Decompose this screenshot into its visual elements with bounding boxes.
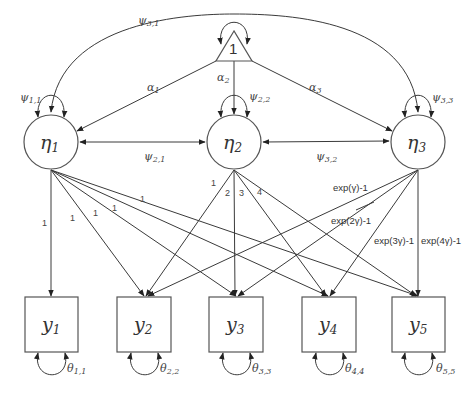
label-eta3-y5: exp(4γ)-1	[421, 235, 461, 246]
variance-arc-psi33	[405, 95, 431, 117]
loading-eta3-y3	[238, 170, 418, 296]
loading-eta2-y4	[234, 170, 326, 296]
label-alpha3: α3	[309, 81, 322, 95]
label-eta1-y4: 1	[112, 203, 117, 213]
label-psi31: ψ3,1	[138, 14, 159, 28]
constant-label: 1	[229, 40, 237, 57]
label-psi11: ψ1,1	[20, 91, 41, 105]
loading-eta1-y2	[51, 170, 144, 296]
loading-eta2-y2	[146, 170, 234, 296]
path-alpha3	[252, 61, 392, 131]
label-eta2-y5: 4	[257, 187, 262, 197]
loading-eta1-y3	[51, 170, 236, 296]
label-eta2-y3: 2	[225, 188, 230, 198]
label-eta1-y2: 1	[70, 213, 75, 223]
residual-arc-theta22	[130, 353, 158, 375]
label-alpha2: α2	[217, 71, 230, 85]
label-eta1-y5: 1	[140, 194, 145, 204]
label-theta33: θ3,3	[252, 362, 271, 376]
label-psi22: ψ2,2	[249, 90, 270, 104]
path-diagram: 1 η1 η2 η3 y1 y2 y3 y4 y5 θ1,1 θ2,2 θ3,3…	[0, 0, 476, 396]
covariance-psi32	[263, 141, 389, 142]
residual-arc-theta33	[222, 353, 250, 375]
label-eta2-y4: 3	[239, 188, 244, 198]
label-psi33: ψ3,3	[432, 91, 453, 105]
label-theta55: θ5,5	[436, 362, 455, 376]
label-eta1-y3: 1	[93, 208, 98, 218]
residual-arc-theta55	[404, 353, 432, 375]
label-eta3-y3: exp(2γ)-1	[331, 215, 371, 226]
label-eta1-y1: 1	[42, 218, 47, 228]
label-eta3-y4: exp(3γ)-1	[374, 235, 414, 246]
label-eta3-y2: exp(γ)-1	[333, 182, 368, 193]
label-theta11: θ1,1	[67, 362, 86, 376]
label-psi32: ψ3,2	[316, 150, 337, 164]
residual-arc-theta44	[315, 353, 343, 375]
residual-arc-theta11	[37, 353, 65, 375]
label-theta44: θ4,4	[345, 362, 364, 376]
label-alpha1: α1	[147, 81, 160, 95]
label-psi21: ψ2,1	[144, 150, 165, 164]
variance-arc-psi11	[38, 95, 64, 117]
path-alpha1	[77, 61, 216, 131]
label-leader-line	[356, 202, 374, 210]
label-theta22: θ2,2	[160, 362, 179, 376]
label-eta2-y2: 1	[211, 178, 216, 188]
loading-eta2-y3	[234, 170, 235, 296]
